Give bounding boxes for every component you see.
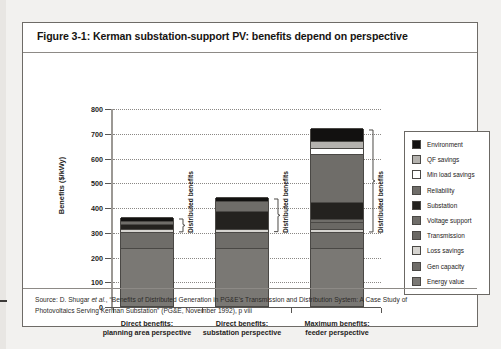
legend-item[interactable]: Substation [405, 198, 489, 213]
chart-plot-area: Benefits ($/kWy) 01002003004005006007008… [23, 53, 479, 289]
legend-label: QF savings [427, 156, 459, 163]
bar-segment [311, 154, 363, 202]
bracket-label: Distributed benefits [187, 171, 194, 233]
y-axis-tick-label: 100 [73, 278, 103, 287]
bar-segment [121, 221, 173, 224]
y-axis-tick-label: 300 [73, 229, 103, 238]
bar-segment [311, 141, 363, 148]
legend-item[interactable]: Gen capacity [405, 259, 489, 274]
legend-label: Transmission [427, 232, 465, 239]
bar-segment [216, 201, 268, 211]
legend-swatch [412, 201, 421, 210]
page-left-margin-rule [0, 0, 6, 349]
page-background: Figure 3-1: Kerman substation-support PV… [0, 0, 501, 349]
legend-label: Reliability [427, 187, 454, 194]
y-axis-tick [105, 134, 111, 135]
y-axis-tick-label: 200 [73, 254, 103, 263]
figure-title-bar: Figure 3-1: Kerman substation-support PV… [23, 23, 477, 53]
legend-label: Substation [427, 202, 457, 209]
figure-source-bar: Source: D. Shugar et al., “Benefits of D… [23, 288, 477, 326]
legend-item[interactable]: Min load savings [405, 167, 489, 182]
legend-swatch [412, 170, 421, 179]
bar-segment [121, 224, 173, 229]
bar-segment [311, 202, 363, 219]
bar-segment [121, 232, 173, 248]
legend-swatch [412, 262, 421, 271]
bar-segment [121, 217, 173, 221]
y-axis-tick [105, 109, 111, 110]
bar-segment [121, 229, 173, 232]
legend-item[interactable]: QF savings [405, 152, 489, 167]
gridline [113, 109, 381, 110]
figure-container: Figure 3-1: Kerman substation-support PV… [22, 22, 478, 327]
bar-segment [216, 229, 268, 232]
page-margin-tick [0, 300, 7, 302]
legend-swatch [412, 277, 421, 286]
bracket-label: Distributed benefits [377, 171, 384, 233]
y-axis-title: Benefits ($/kWy) [57, 126, 66, 246]
bar-segment [311, 128, 363, 142]
legend-label: Environment [427, 141, 463, 148]
legend-label: Loss savings [427, 247, 464, 254]
legend-label: Min load savings [427, 171, 475, 178]
distributed-benefits-bracket [178, 218, 186, 233]
bar-segment [216, 197, 268, 201]
legend-swatch [412, 140, 421, 149]
y-axis-tick-label: 800 [73, 105, 103, 114]
legend-label: Energy value [427, 278, 464, 285]
y-axis-tick [105, 282, 111, 283]
x-axis-label-line2: feeder perspective [279, 328, 395, 337]
legend-swatch [412, 246, 421, 255]
source-title-part: , “Benefits of Distributed Generation in… [106, 296, 407, 303]
figure-title: Figure 3-1: Kerman substation-support PV… [37, 30, 408, 42]
bracket-label: Distributed benefits [282, 171, 289, 233]
figure-source-line-1: Source: D. Shugar et al., “Benefits of D… [35, 296, 407, 303]
y-axis-tick [105, 159, 111, 160]
distributed-benefits-bracket [368, 129, 376, 233]
legend-item[interactable]: Environment [405, 137, 489, 152]
source-prefix: Source: D. Shugar [35, 296, 91, 303]
legend-label: Gen capacity [427, 263, 464, 270]
bar-segment [311, 219, 363, 221]
distributed-benefits-bracket [273, 198, 281, 233]
bar-segment [311, 148, 363, 153]
bar-segment [216, 211, 268, 228]
legend-item[interactable]: Transmission [405, 228, 489, 243]
stacked-bar [310, 129, 364, 307]
legend-swatch [412, 216, 421, 225]
legend-item[interactable]: Voltage support [405, 213, 489, 228]
y-axis-tick-label: 500 [73, 179, 103, 188]
y-axis-line [111, 109, 113, 309]
legend-swatch [412, 155, 421, 164]
figure-source-line-2: Photovoltaics Serving Kerman Substation”… [35, 307, 252, 314]
legend-swatch [412, 231, 421, 240]
bar-segment [311, 222, 363, 229]
y-axis-tick [105, 258, 111, 259]
legend-item[interactable]: Reliability [405, 183, 489, 198]
source-etal: et al. [91, 296, 105, 303]
y-axis-tick-label: 600 [73, 155, 103, 164]
bar-segment [311, 229, 363, 232]
bar-segment [216, 232, 268, 248]
legend-label: Voltage support [427, 217, 471, 224]
chart-legend: EnvironmentQF savingsMin load savingsRel… [404, 131, 490, 295]
y-axis-tick [105, 233, 111, 234]
y-axis-tick [105, 208, 111, 209]
legend-swatch [412, 186, 421, 195]
y-axis-tick-label: 400 [73, 204, 103, 213]
bar-segment [311, 232, 363, 248]
y-axis-tick [105, 183, 111, 184]
legend-item[interactable]: Loss savings [405, 243, 489, 258]
y-axis-tick-label: 700 [73, 130, 103, 139]
legend-item[interactable]: Energy value [405, 274, 489, 289]
